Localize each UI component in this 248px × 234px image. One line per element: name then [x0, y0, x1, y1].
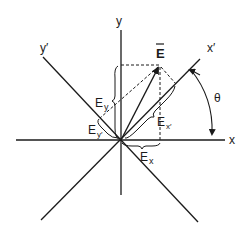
x-prime-axis-label: x′	[207, 41, 216, 55]
ex-prime-label-main: E	[157, 115, 165, 129]
brace-ey	[112, 66, 119, 139]
ey-label-sub: y	[104, 102, 109, 112]
coordinate-rotation-diagram: y y′ x′ x θ E E y E y′ E x′ E x	[0, 0, 248, 234]
y-axis-label: y	[116, 14, 122, 28]
ey-prime-label-sub: y′	[97, 130, 103, 139]
theta-arc-start-arrow	[190, 70, 200, 75]
vector-e-arrow	[121, 68, 158, 140]
vector-e-label: E	[156, 46, 165, 61]
ey-prime-label-main: E	[88, 123, 96, 137]
projection-to-x-prime-dashed	[161, 67, 176, 84]
ex-label-main: E	[140, 150, 148, 164]
theta-arc	[191, 70, 212, 134]
theta-label: θ	[214, 91, 221, 105]
ex-prime-label-sub: x′	[166, 122, 172, 131]
y-prime-axis-label: y′	[40, 41, 49, 55]
x-axis-label: x	[229, 133, 235, 147]
ey-label-main: E	[95, 96, 103, 110]
ex-label-sub: x	[149, 156, 154, 166]
